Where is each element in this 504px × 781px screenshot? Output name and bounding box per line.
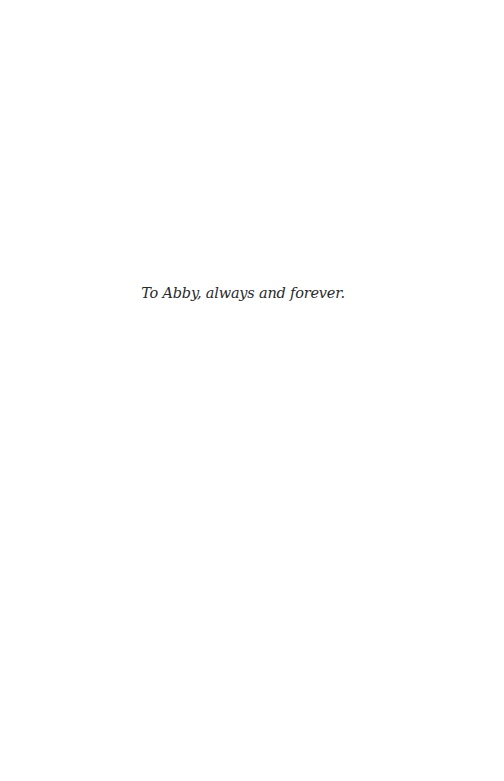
dedication-text: To Abby, always and forever.: [0, 283, 504, 303]
book-page: To Abby, always and forever.: [0, 0, 504, 781]
